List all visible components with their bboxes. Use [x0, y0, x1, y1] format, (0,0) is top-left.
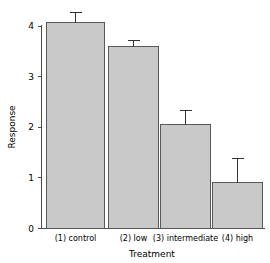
x-tick-label-control: (1) control — [55, 234, 97, 243]
y-tick-label-0: 0 — [28, 224, 34, 234]
bar-intermediate — [161, 125, 211, 229]
bar-chart-figure: 0 1 2 3 4 (1) control (2) low — [0, 0, 270, 263]
y-tick-label-3: 3 — [28, 72, 34, 82]
x-tick-label-high: (4) high — [222, 234, 253, 243]
x-tick-label-low: (2) low — [120, 234, 148, 243]
y-axis-title: Response — [7, 105, 17, 149]
y-tick-label-1: 1 — [28, 173, 34, 183]
bar-high — [213, 183, 263, 229]
bars-group — [47, 23, 263, 229]
chart-canvas: 0 1 2 3 4 (1) control (2) low — [0, 0, 270, 263]
bar-control — [47, 23, 105, 229]
x-axis-title: Treatment — [128, 249, 175, 259]
bar-low — [109, 47, 159, 229]
y-axis-ticks: 0 1 2 3 4 — [28, 21, 41, 234]
y-tick-label-2: 2 — [28, 122, 34, 132]
x-tick-label-intermediate: (3) intermediate — [153, 234, 218, 243]
y-tick-label-4: 4 — [28, 21, 34, 31]
x-axis-tick-labels: (1) control (2) low (3) intermediate (4)… — [55, 234, 253, 243]
